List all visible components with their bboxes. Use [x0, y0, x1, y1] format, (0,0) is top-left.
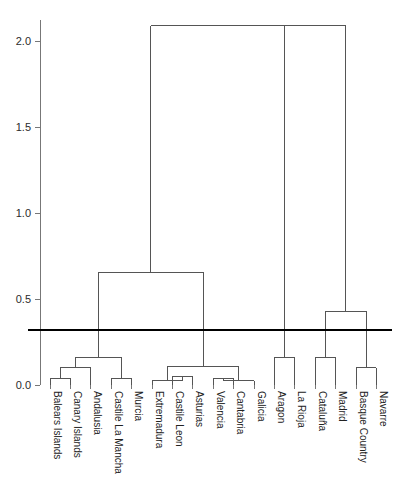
leaf-label: Castile Leon — [174, 391, 185, 447]
y-axis: 0.00.51.01.52.0 — [16, 20, 40, 391]
y-axis-tick-label: 2.0 — [16, 35, 31, 47]
leaf-label: Cataluña — [317, 391, 328, 431]
y-axis-tick-label: 0.5 — [16, 293, 31, 305]
leaf-label: Andalusia — [92, 391, 103, 435]
leaf-label: Navarre — [378, 391, 389, 427]
leaf-label: La Rioja — [296, 391, 307, 428]
y-axis-tick-label: 1.5 — [16, 121, 31, 133]
leaf-label: Valencia — [215, 391, 226, 429]
leaf-label: Castile La Mancha — [113, 391, 124, 474]
leaf-label: Galicia — [256, 391, 267, 422]
y-axis-tick-label: 0.0 — [16, 379, 31, 391]
leaf-label: Asturias — [194, 391, 205, 427]
leaf-label: Extremadura — [154, 391, 165, 449]
dendrogram-plot: 0.00.51.01.52.0Balears IslandsCanary Isl… — [0, 0, 395, 496]
leaf-labels: Balears IslandsCanary IslandsAndalusiaCa… — [50, 385, 389, 474]
y-axis-tick-label: 1.0 — [16, 207, 31, 219]
dendrogram-tree — [50, 26, 376, 385]
leaf-label: Basque Country — [358, 391, 369, 463]
leaf-label: Cantabria — [235, 391, 246, 435]
leaf-label: Madrid — [337, 391, 348, 422]
leaf-label: Aragon — [276, 391, 287, 423]
leaf-label: Murcia — [133, 391, 144, 421]
dendrogram-canvas: 0.00.51.01.52.0Balears IslandsCanary Isl… — [0, 0, 395, 496]
leaf-label: Balears Islands — [52, 391, 63, 459]
leaf-label: Canary Islands — [72, 391, 83, 458]
